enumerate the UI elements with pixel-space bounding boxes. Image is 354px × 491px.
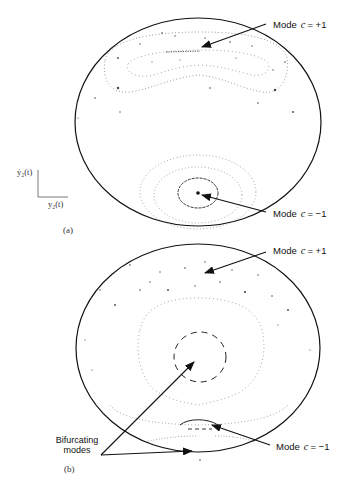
panel-a-plot (38, 18, 321, 229)
panel-b-orbit-lower-lobe (110, 405, 288, 425)
panel-a-scatter-points (77, 32, 294, 118)
panel-a-lower-orbit-2 (154, 167, 242, 223)
mode-label-prefix: Mode (273, 245, 297, 256)
panel-b-boundary (76, 244, 320, 452)
panel-a-label-mode-minus: Modec= −1 (273, 209, 326, 220)
bifurcating-label-line-2: modes (52, 445, 102, 455)
panel-a-tag: (a) (63, 225, 73, 235)
mode-value: = +1 (307, 245, 326, 256)
panel-a-upper-orbit-inner (127, 50, 269, 76)
panel-b-scatter-points (84, 261, 310, 461)
bifurcating-label-line-1: Bifurcating (52, 435, 102, 445)
panel-a-mode-minus-center (196, 191, 200, 195)
panel-b-arrow-mode-plus (205, 252, 266, 273)
panel-a-axis-y-label: ẏ₂(t) (17, 168, 32, 177)
panel-b-tag: (b) (64, 464, 75, 474)
mode-label-prefix: Mode (273, 208, 297, 219)
panel-a-axis-x-label: y₂(t) (48, 200, 63, 209)
panel-a-axis-inset (38, 170, 68, 197)
panel-b-plot (76, 244, 320, 461)
mode-variable: c (304, 441, 309, 452)
mode-value: = −1 (307, 208, 326, 219)
panel-a-boundary (75, 18, 321, 226)
mode-variable: c (301, 19, 306, 30)
panel-b-mode-minus-orbit (180, 420, 218, 425)
panel-a-arrow-mode-plus (202, 24, 266, 47)
panel-a-upper-orbit-outer (104, 32, 287, 92)
mode-value: = −1 (310, 441, 329, 452)
panel-b-arrow-bifurcating-1 (101, 362, 194, 455)
panel-b-orbit-bottom (145, 436, 255, 442)
panel-a-label-mode-plus: Modec= +1 (273, 20, 326, 31)
panel-b-label-mode-plus: Modec= +1 (273, 246, 326, 257)
panel-b-orbit-outer (138, 298, 264, 405)
panel-b-arrow-bifurcating-2 (101, 451, 192, 455)
panel-b-label-mode-minus: Modec= −1 (276, 442, 329, 453)
panel-b-arrow-mode-minus (212, 425, 270, 445)
mode-variable: c (301, 245, 306, 256)
panel-b-bifurcating-label: Bifurcating modes (52, 435, 102, 455)
mode-variable: c (301, 208, 306, 219)
mode-label-prefix: Mode (276, 441, 300, 452)
mode-value: = +1 (307, 19, 326, 30)
mode-label-prefix: Mode (273, 19, 297, 30)
